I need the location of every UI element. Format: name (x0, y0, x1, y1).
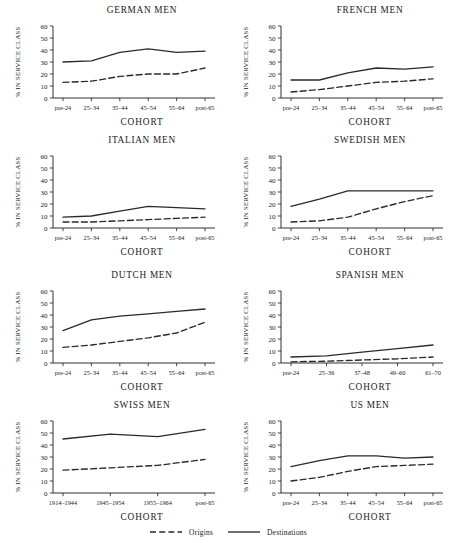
y-tick-label: 10 (269, 478, 277, 486)
y-tick-label: 20 (269, 466, 277, 474)
x-tick-label: 35–44 (340, 234, 357, 241)
y-tick-label: 0 (44, 360, 48, 368)
series-line-origins (291, 357, 433, 362)
y-tick-label: 40 (269, 442, 277, 450)
x-tick-label: 49–60 (390, 369, 406, 376)
x-axis-label: COHORT (120, 247, 163, 257)
y-tick-label: 0 (44, 225, 48, 233)
x-tick-label: 61–70 (425, 369, 441, 376)
y-axis-label: % IN SERVICE CLASS (242, 26, 249, 97)
x-tick-label: pre-24 (55, 234, 72, 241)
x-axis-label: COHORT (120, 512, 163, 521)
x-tick-label: 55–64 (169, 234, 186, 241)
y-tick-label: 60 (269, 23, 277, 31)
y-tick-label: 50 (41, 430, 49, 438)
x-tick-label: 55–64 (169, 369, 186, 376)
x-tick-label: 55–64 (397, 234, 414, 241)
y-axis-label: % IN SERVICE CLASS (14, 26, 21, 97)
x-tick-label: pre-24 (283, 369, 300, 376)
x-tick-label: 25–34 (84, 234, 101, 241)
y-tick-label: 30 (41, 189, 49, 197)
y-tick-label: 40 (41, 442, 49, 450)
y-tick-label: 30 (269, 189, 277, 197)
chart-title: US MEN (350, 400, 389, 410)
chart-svg: FRENCH MEN% IN SERVICE CLASS010203040506… (228, 0, 456, 130)
x-axis-label: COHORT (120, 382, 163, 392)
y-tick-label: 60 (41, 153, 49, 161)
x-tick-label: 45–54 (140, 104, 157, 111)
x-tick-label: 1945–1954 (96, 499, 125, 506)
series-line-origins (63, 459, 205, 470)
x-tick-label: pre-24 (55, 104, 72, 111)
chart-panel: US MEN% IN SERVICE CLASS0102030405060pre… (228, 395, 456, 521)
y-tick-label: 50 (41, 35, 49, 43)
y-tick-label: 60 (269, 418, 277, 426)
y-tick-label: 40 (269, 312, 277, 320)
series-line-origins (291, 196, 433, 222)
series-line-destinations (291, 345, 433, 357)
y-tick-label: 30 (269, 324, 277, 332)
y-tick-label: 20 (41, 71, 49, 79)
y-tick-label: 10 (269, 348, 277, 356)
chart-title: SWISS MEN (114, 400, 171, 410)
x-tick-label: 25–34 (84, 369, 101, 376)
x-tick-label: 45–54 (140, 234, 157, 241)
y-tick-label: 0 (44, 95, 48, 103)
y-tick-label: 10 (41, 213, 49, 221)
y-tick-label: 60 (269, 288, 277, 296)
y-tick-label: 0 (44, 490, 48, 498)
chart-title: ITALIAN MEN (108, 135, 176, 145)
chart-title: FRENCH MEN (337, 5, 404, 15)
y-tick-label: 40 (41, 312, 49, 320)
y-tick-label: 20 (41, 201, 49, 209)
x-tick-label: 45–54 (368, 234, 385, 241)
x-tick-label: pre-24 (283, 499, 300, 506)
y-tick-label: 0 (272, 95, 276, 103)
y-tick-label: 50 (269, 35, 277, 43)
y-tick-label: 40 (269, 47, 277, 55)
x-axis-label: COHORT (348, 247, 391, 257)
y-tick-label: 50 (269, 430, 277, 438)
y-axis-label: % IN SERVICE CLASS (242, 421, 249, 492)
x-tick-label: 55–64 (397, 499, 414, 506)
x-tick-label: post-65 (196, 499, 215, 506)
y-tick-label: 20 (269, 336, 277, 344)
legend-entry-destinations: Destinations (227, 527, 307, 537)
series-line-destinations (291, 191, 433, 207)
legend-entry-origins: Origins (149, 527, 213, 537)
x-tick-label: 25–34 (312, 499, 329, 506)
chart-title: DUTCH MEN (111, 270, 172, 280)
chart-svg: DUTCH MEN% IN SERVICE CLASS0102030405060… (0, 265, 228, 395)
x-axis-label: COHORT (348, 117, 391, 127)
y-axis-label: % IN SERVICE CLASS (242, 291, 249, 362)
chart-title: SPANISH MEN (336, 270, 405, 280)
chart-panel: DUTCH MEN% IN SERVICE CLASS0102030405060… (0, 265, 228, 395)
x-tick-label: pre-24 (283, 104, 300, 111)
series-line-origins (63, 68, 205, 82)
y-tick-label: 60 (269, 153, 277, 161)
y-tick-label: 30 (41, 59, 49, 67)
y-tick-label: 40 (41, 177, 49, 185)
x-tick-label: 35–44 (112, 234, 129, 241)
y-tick-label: 60 (41, 288, 49, 296)
chart-title: SWEDISH MEN (334, 135, 406, 145)
series-line-origins (291, 464, 433, 481)
series-line-destinations (63, 206, 205, 217)
y-tick-label: 0 (272, 225, 276, 233)
chart-panel: SWISS MEN% IN SERVICE CLASS0102030405060… (0, 395, 228, 521)
y-tick-label: 30 (41, 324, 49, 332)
y-tick-label: 0 (272, 490, 276, 498)
x-tick-label: 45–54 (368, 499, 385, 506)
x-tick-label: post-65 (196, 369, 215, 376)
y-tick-label: 40 (269, 177, 277, 185)
x-tick-label: post-65 (424, 104, 443, 111)
y-tick-label: 60 (41, 418, 49, 426)
chart-panel: SPANISH MEN% IN SERVICE CLASS01020304050… (228, 265, 456, 395)
series-line-origins (291, 79, 433, 92)
chart-panel: SWEDISH MEN% IN SERVICE CLASS01020304050… (228, 130, 456, 265)
x-tick-label: post-65 (196, 234, 215, 241)
x-tick-label: 35–44 (112, 369, 129, 376)
x-axis-label: COHORT (348, 512, 391, 521)
series-line-destinations (63, 429, 205, 439)
x-tick-label: 25–36 (319, 369, 335, 376)
